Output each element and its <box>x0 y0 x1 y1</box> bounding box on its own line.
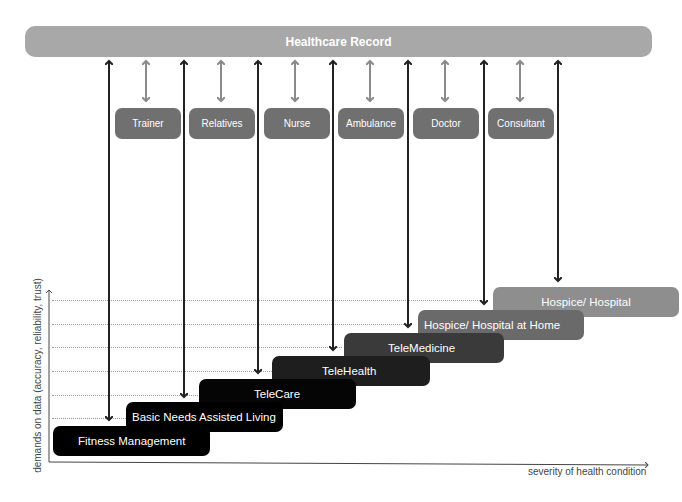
actor-arrows <box>146 61 520 101</box>
gridline <box>52 395 202 396</box>
step-fitness-management: Fitness Management <box>53 426 210 456</box>
actor-nurse: Nurse <box>264 108 330 139</box>
actor-trainer: Trainer <box>115 108 181 139</box>
y-axis-label: demands on data (accuracy, reliability, … <box>32 261 43 491</box>
x-axis-label: severity of health condition <box>528 466 646 477</box>
gridline <box>52 300 482 301</box>
gridline <box>52 324 412 325</box>
healthcare-record-bar: Healthcare Record <box>25 26 652 57</box>
gridline <box>52 418 132 419</box>
gridline <box>52 347 342 348</box>
actor-doctor: Doctor <box>413 108 479 139</box>
gridline <box>52 371 272 372</box>
healthcare-record-title: Healthcare Record <box>285 35 391 49</box>
actor-consultant: Consultant <box>488 108 554 139</box>
actor-ambulance: Ambulance <box>338 108 404 139</box>
actor-relatives: Relatives <box>189 108 255 139</box>
